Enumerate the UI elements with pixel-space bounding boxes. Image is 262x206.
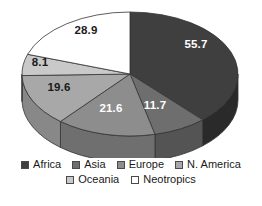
data-label-europe: 21.6	[99, 102, 122, 114]
pie-plot-area: 55.7 11.7 21.6 19.6 8.1 28.9	[0, 0, 262, 158]
legend-swatch-icon-oceania	[66, 176, 74, 184]
legend-item-oceania[interactable]: Oceania	[66, 174, 119, 185]
data-label-oceania: 8.1	[32, 56, 49, 68]
pie-slice-tops	[22, 12, 238, 136]
legend-label-asia: Asia	[84, 159, 105, 170]
legend-label-n-america: N. America	[187, 159, 241, 170]
legend-item-n-america[interactable]: N. America	[175, 159, 241, 170]
legend-item-neotropics[interactable]: Neotropics	[131, 174, 196, 185]
data-label-africa: 55.7	[184, 38, 207, 50]
data-label-neotropics: 28.9	[74, 24, 97, 36]
legend-row-2: Oceania Neotropics	[0, 174, 262, 185]
legend-swatch-icon-n-america	[175, 161, 183, 169]
legend-item-asia[interactable]: Asia	[72, 159, 105, 170]
legend-label-oceania: Oceania	[78, 174, 119, 185]
pie-svg: 55.7 11.7 21.6 19.6 8.1 28.9	[0, 0, 262, 158]
legend-label-europe: Europe	[129, 159, 164, 170]
legend-label-africa: Africa	[33, 159, 61, 170]
legend-row-1: Africa Asia Europe N. America	[0, 159, 262, 170]
legend-swatch-icon-europe	[117, 161, 125, 169]
legend-label-neotropics: Neotropics	[143, 174, 196, 185]
legend-swatch-icon-neotropics	[131, 176, 139, 184]
data-label-asia: 11.7	[144, 99, 167, 111]
pie-chart: 55.7 11.7 21.6 19.6 8.1 28.9 Africa Asia…	[0, 0, 262, 206]
legend-item-africa[interactable]: Africa	[21, 159, 61, 170]
legend-swatch-icon-asia	[72, 161, 80, 169]
chart-legend: Africa Asia Europe N. America Oceania	[0, 159, 262, 185]
data-label-n-america: 19.6	[47, 81, 70, 93]
legend-swatch-icon-africa	[21, 161, 29, 169]
legend-item-europe[interactable]: Europe	[117, 159, 164, 170]
